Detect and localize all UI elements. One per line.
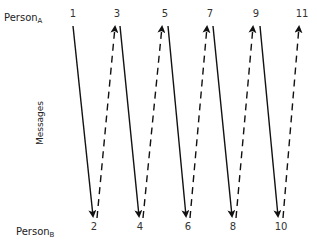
message-3-arrow (120, 26, 139, 216)
message-2-arrow (97, 27, 115, 218)
message-6-arrow (190, 27, 207, 218)
message-9-arrow (260, 26, 278, 216)
message-8-arrow (236, 27, 253, 218)
message-arrows (0, 0, 317, 245)
message-10-arrow (283, 27, 299, 218)
message-1-arrow (73, 26, 93, 216)
message-5-arrow (168, 26, 186, 216)
message-7-arrow (213, 26, 232, 216)
message-4-arrow (143, 27, 162, 218)
